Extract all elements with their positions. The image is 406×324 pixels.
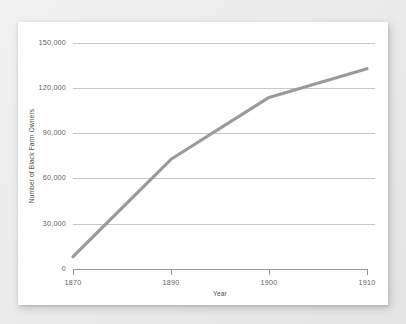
y-tick-label-150000: 150,000 [39, 38, 66, 47]
y-tick-label-60000: 60,000 [43, 173, 66, 182]
x-axis-tick-labels: 1870 1890 1900 1910 [65, 278, 376, 287]
y-tick-label-30000: 30,000 [43, 219, 66, 228]
y-tick-label-120000: 120,000 [39, 83, 66, 92]
y-axis-tick-labels: 150,000 120,000 90,000 60,000 30,000 0 [39, 38, 66, 273]
chart-card: 150,000 120,000 90,000 60,000 30,000 0 1… [18, 22, 388, 305]
data-series-line [73, 69, 367, 257]
y-tick-label-90000: 90,000 [43, 128, 66, 137]
gridlines [73, 43, 375, 224]
x-tick-label-1900: 1900 [261, 278, 278, 287]
x-axis-title: Year [213, 290, 228, 297]
x-tick-label-1890: 1890 [163, 278, 180, 287]
y-tick-label-0: 0 [62, 264, 66, 273]
x-tick-label-1870: 1870 [65, 278, 82, 287]
page-background: 150,000 120,000 90,000 60,000 30,000 0 1… [0, 0, 406, 324]
line-chart: 150,000 120,000 90,000 60,000 30,000 0 1… [18, 22, 388, 305]
x-tick-label-1910: 1910 [359, 278, 376, 287]
y-axis-title: Number of Black Farm Owners [28, 108, 35, 203]
